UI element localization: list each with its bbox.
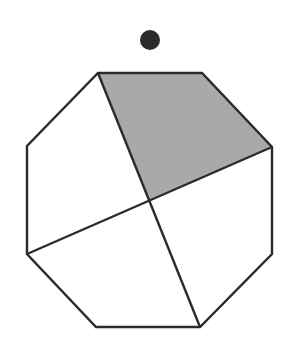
marker-dot	[140, 30, 160, 50]
octagon-diagram	[0, 0, 290, 346]
